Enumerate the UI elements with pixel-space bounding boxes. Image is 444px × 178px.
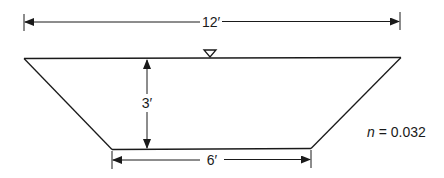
- channel-section: [24, 58, 401, 150]
- depth-dimension: 3′: [142, 60, 153, 148]
- top-width-dimension: 12′: [24, 12, 400, 31]
- left-side-slope: [24, 59, 112, 150]
- top-width-label: 12′: [202, 14, 221, 30]
- channel-bottom: [112, 149, 311, 150]
- roughness-symbol: n: [367, 124, 375, 140]
- bottom-width-dimension: 6′: [112, 150, 311, 169]
- depth-label: 3′: [142, 95, 153, 111]
- roughness-value: 0.032: [391, 124, 426, 140]
- roughness-equals: =: [375, 124, 391, 140]
- bottom-width-label: 6′: [207, 152, 218, 168]
- channel-diagram: 12′ 3′ 6′ n = 0.032: [0, 0, 444, 178]
- water-surface-line: [24, 58, 401, 59]
- water-surface-icon: [204, 50, 216, 57]
- roughness-label: n = 0.032: [367, 124, 426, 140]
